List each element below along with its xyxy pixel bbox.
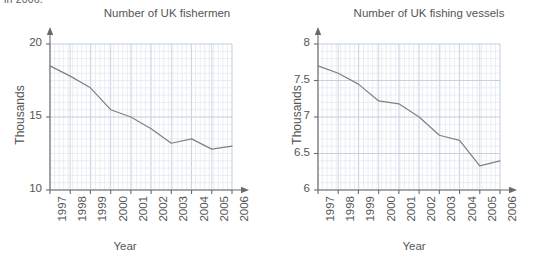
x-tick-label: 2000 bbox=[117, 196, 129, 236]
x-tick-label: 2006 bbox=[506, 196, 518, 236]
y-tick-label: 15 bbox=[2, 109, 42, 121]
y-tick-label: 6.5 bbox=[270, 146, 310, 158]
x-tick-label: 2003 bbox=[445, 196, 457, 236]
y-tick-label: 7 bbox=[270, 109, 310, 121]
x-tick-label: 2004 bbox=[466, 196, 478, 236]
y-tick-label: 7.5 bbox=[270, 73, 310, 85]
x-tick-label: 2002 bbox=[157, 196, 169, 236]
y-tick-label: 20 bbox=[2, 36, 42, 48]
y-tick-label: 10 bbox=[2, 182, 42, 194]
x-tick-label: 2006 bbox=[238, 196, 250, 236]
x-tick-label: 1997 bbox=[56, 196, 68, 236]
x-tick-label: 1998 bbox=[76, 196, 88, 236]
worksheet-page: in 2006. Number of UK fishermen Thousand… bbox=[0, 0, 548, 266]
chart-uk-fishing-vessels: Number of UK fishing vessels Thousands Y… bbox=[274, 0, 548, 266]
chart-uk-fishermen: Number of UK fishermen Thousands Year 10… bbox=[0, 0, 274, 266]
x-axis-arrow bbox=[509, 187, 517, 193]
x-tick-label: 1998 bbox=[344, 196, 356, 236]
x-tick-label: 1997 bbox=[324, 196, 336, 236]
x-tick-label: 1999 bbox=[364, 196, 376, 236]
gridlines bbox=[50, 44, 232, 190]
x-tick-label: 2001 bbox=[137, 196, 149, 236]
y-axis-arrow bbox=[315, 27, 321, 35]
x-tick-label: 2005 bbox=[486, 196, 498, 236]
x-tick-label: 2005 bbox=[218, 196, 230, 236]
y-tick-label: 8 bbox=[270, 36, 310, 48]
x-axis-arrow bbox=[241, 187, 249, 193]
x-tick-label: 2004 bbox=[198, 196, 210, 236]
x-tick-label: 2001 bbox=[405, 196, 417, 236]
y-tick-label: 6 bbox=[270, 182, 310, 194]
x-tick-label: 2000 bbox=[385, 196, 397, 236]
x-tick-label: 1999 bbox=[96, 196, 108, 236]
x-tick-label: 2002 bbox=[425, 196, 437, 236]
x-tick-label: 2003 bbox=[177, 196, 189, 236]
gridlines bbox=[318, 44, 500, 190]
y-axis-arrow bbox=[47, 27, 53, 35]
